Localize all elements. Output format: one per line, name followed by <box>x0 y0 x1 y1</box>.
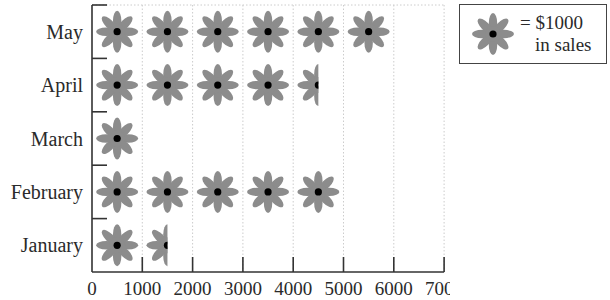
flower-icon <box>197 11 239 53</box>
legend-equals: = $1000 <box>520 12 583 33</box>
flower-icon <box>247 171 289 213</box>
x-tick-label: 1000 <box>123 278 161 299</box>
half-flower-icon <box>297 64 339 106</box>
legend-unit: in sales <box>520 34 591 56</box>
y-axis-labels: MayAprilMarchFebruaryJanuary <box>11 21 84 258</box>
flower-icon <box>96 171 138 213</box>
category-label: March <box>31 128 83 150</box>
flower-icon <box>470 11 516 57</box>
category-label: April <box>41 74 84 97</box>
legend: = $1000 in sales <box>459 4 607 64</box>
legend-text: = $1000 in sales <box>520 12 591 56</box>
flower-icon <box>197 64 239 106</box>
flower-icon <box>96 224 138 266</box>
flower-icon <box>297 11 339 53</box>
flower-icon <box>96 64 138 106</box>
flower-icon <box>96 11 138 53</box>
category-label: January <box>21 234 83 257</box>
flower-icon <box>96 118 138 160</box>
half-flower-icon <box>146 224 188 266</box>
x-tick-label: 0 <box>87 278 97 299</box>
pictograph-chart: MayAprilMarchFebruaryJanuary 01000200030… <box>0 0 450 300</box>
x-tick-label: 7000 <box>425 278 450 299</box>
flower-icon <box>247 64 289 106</box>
x-tick-label: 5000 <box>325 278 363 299</box>
flower-icon <box>197 171 239 213</box>
x-tick-label: 6000 <box>375 278 413 299</box>
flower-icon <box>146 11 188 53</box>
flower-icon <box>348 11 390 53</box>
x-tick-label: 2000 <box>174 278 212 299</box>
x-axis-labels: 01000200030004000500060007000 <box>87 278 450 299</box>
flower-icon <box>297 171 339 213</box>
flower-icon <box>146 64 188 106</box>
category-label: May <box>46 21 83 44</box>
x-tick-label: 4000 <box>274 278 312 299</box>
flower-icon <box>146 171 188 213</box>
x-tick-label: 3000 <box>224 278 262 299</box>
category-label: February <box>11 181 83 204</box>
flower-icon <box>247 11 289 53</box>
